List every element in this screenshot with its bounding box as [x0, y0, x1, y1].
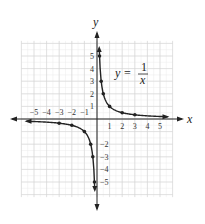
svg-text:5: 5	[90, 52, 94, 61]
svg-text:4: 4	[145, 122, 149, 131]
svg-text:−4: −4	[42, 108, 51, 117]
svg-text:5: 5	[158, 122, 162, 131]
equation-numerator: 1	[141, 60, 147, 74]
equation-lhs: y =	[114, 66, 131, 80]
svg-text:−4: −4	[100, 165, 109, 174]
svg-text:3: 3	[90, 77, 94, 86]
y-axis-label: y	[92, 15, 99, 29]
svg-text:−1: −1	[80, 108, 89, 117]
svg-text:−2: −2	[100, 140, 109, 149]
svg-text:−5: −5	[100, 178, 109, 187]
svg-text:2: 2	[90, 90, 94, 99]
svg-text:3: 3	[133, 122, 137, 131]
svg-text:4: 4	[90, 65, 94, 74]
svg-text:1: 1	[108, 122, 112, 131]
svg-text:−5: −5	[30, 108, 39, 117]
svg-text:1: 1	[90, 102, 94, 111]
x-axis-label: x	[186, 112, 193, 126]
svg-text:−3: −3	[100, 153, 109, 162]
svg-text:2: 2	[120, 122, 124, 131]
svg-text:−3: −3	[55, 108, 64, 117]
svg-text:−2: −2	[68, 108, 77, 117]
reciprocal-function-graph: −5−4−3−2−112345−5−4−3−212345 x y y = 1 x	[0, 0, 205, 224]
equation-denominator: x	[139, 73, 146, 87]
equation-label: y = 1 x	[114, 60, 148, 87]
